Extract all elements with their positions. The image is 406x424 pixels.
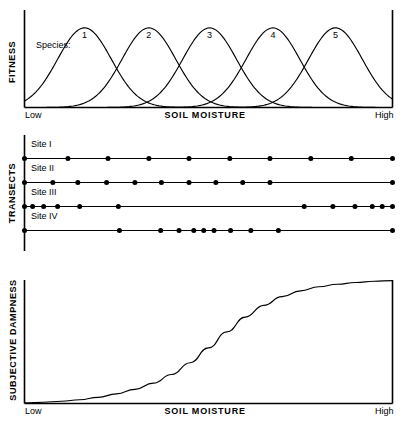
species-number-5: 5 [333, 30, 338, 40]
dampness-sigmoid-curve [25, 281, 393, 403]
transect-sample-dot [177, 228, 182, 233]
transect-sample-dot [77, 204, 82, 209]
transect-sample-dot [158, 228, 163, 233]
transect-sample-dot [390, 228, 395, 233]
fitness-curve-species-5 [223, 28, 393, 108]
figure-root: FITNESS Species: 12345 SOIL MOISTURE Low… [0, 0, 406, 424]
transect-sample-dot [201, 228, 206, 233]
dampness-x-high-label: High [375, 406, 394, 416]
transect-sample-dot [267, 156, 272, 161]
species-legend-label: Species: [36, 40, 71, 50]
fitness-y-axis-label: FITNESS [7, 41, 17, 83]
dampness-x-low-label: Low [25, 406, 42, 416]
transect-sample-dot [213, 180, 218, 185]
transect-sample-dot [55, 204, 60, 209]
transect-sample-dot [117, 228, 122, 233]
transect-sample-dot [308, 156, 313, 161]
fitness-panel: FITNESS Species: 12345 SOIL MOISTURE Low… [0, 0, 406, 122]
transect-sample-dot [390, 204, 395, 209]
transect-sample-dot [352, 204, 357, 209]
site-label-1: Site I [31, 139, 52, 149]
transect-sample-dot [30, 204, 35, 209]
transect-sample-dot [41, 204, 46, 209]
transect-sample-dot [75, 180, 80, 185]
transect-sample-dot [22, 204, 27, 209]
transect-sample-dot [390, 180, 395, 185]
site-label-3: Site III [31, 187, 57, 197]
fitness-x-low-label: Low [25, 110, 42, 120]
site-label-4: Site IV [31, 211, 58, 221]
transect-sample-dot [302, 204, 307, 209]
transects-y-axis-label: TRANSECTS [7, 163, 17, 223]
species-number-4: 4 [270, 30, 275, 40]
transect-sample-dot [65, 156, 70, 161]
transect-sample-dot [276, 228, 281, 233]
transect-rows-group [22, 156, 395, 233]
fitness-x-high-label: High [375, 110, 394, 120]
transect-sample-dot [349, 156, 354, 161]
transect-sample-dot [248, 228, 253, 233]
transect-sample-dot [187, 156, 192, 161]
site-label-2: Site II [31, 163, 54, 173]
transect-sample-dot [132, 180, 137, 185]
dampness-panel: SUBJECTIVE DAMPNESS SOIL MOISTURE Low Hi… [0, 262, 406, 424]
species-number-2: 2 [146, 30, 151, 40]
dampness-plot [0, 262, 406, 424]
transect-sample-dot [116, 204, 121, 209]
transect-sample-dot [212, 228, 217, 233]
transect-sample-dot [240, 180, 245, 185]
dampness-y-axis-label: SUBJECTIVE DAMPNESS [7, 279, 17, 400]
transect-sample-dot [22, 180, 27, 185]
transect-sample-dot [380, 204, 385, 209]
transects-panel: TRANSECTS Site ISite IISite IIISite IV [0, 133, 406, 253]
dampness-x-axis-label: SOIL MOISTURE [165, 406, 246, 416]
transect-sample-dot [191, 228, 196, 233]
transect-sample-dot [228, 228, 233, 233]
transect-sample-dot [370, 204, 375, 209]
species-number-3: 3 [207, 30, 212, 40]
fitness-x-axis-label: SOIL MOISTURE [165, 110, 246, 120]
transect-sample-dot [390, 156, 395, 161]
transect-sample-dot [22, 228, 27, 233]
species-number-1: 1 [82, 30, 87, 40]
fitness-plot [0, 0, 406, 122]
transect-sample-dot [227, 156, 232, 161]
transect-sample-dot [330, 204, 335, 209]
transect-sample-dot [106, 156, 111, 161]
transect-sample-dot [187, 180, 192, 185]
transect-sample-dot [159, 180, 164, 185]
transect-sample-dot [267, 180, 272, 185]
transect-sample-dot [104, 180, 109, 185]
transect-sample-dot [22, 156, 27, 161]
transect-sample-dot [50, 180, 55, 185]
transects-plot [0, 133, 406, 253]
transect-sample-dot [146, 156, 151, 161]
